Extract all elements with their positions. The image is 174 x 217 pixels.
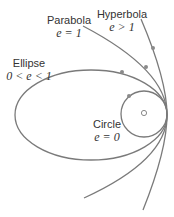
- parabola-label: Parabola e = 1: [44, 14, 94, 40]
- parabola-condition: e = 1: [44, 27, 94, 40]
- focus-point: [141, 110, 146, 115]
- circle-marker-dot: [127, 94, 131, 98]
- hyperbola-label: Hyperbola e > 1: [96, 8, 148, 34]
- parabola-marker-dot: [144, 65, 148, 69]
- hyperbola-marker-dot: [151, 46, 155, 50]
- ellipse-condition: 0 < e < 1: [6, 70, 52, 83]
- circle-condition: e = 0: [90, 131, 124, 144]
- ellipse-marker-dot: [120, 70, 124, 74]
- ellipse-label: Ellipse 0 < e < 1: [6, 57, 52, 83]
- circle-label: Circle e = 0: [90, 118, 124, 144]
- hyperbola-condition: e > 1: [96, 21, 148, 34]
